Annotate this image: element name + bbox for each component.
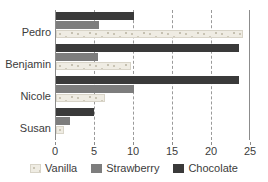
y-axis-label-benjamin: Benjamin (1, 58, 51, 70)
bar-nicole-vanilla (56, 94, 105, 102)
x-tick-label-25: 25 (244, 145, 256, 157)
legend-swatch-chocolate-icon (173, 164, 184, 173)
legend-item-chocolate: Chocolate (173, 162, 238, 174)
legend-swatch-strawberry-icon (91, 164, 102, 173)
bar-benjamin-vanilla (56, 62, 131, 70)
bar-susan-strawberry (56, 117, 70, 125)
bar-benjamin-strawberry (56, 53, 98, 61)
x-tick-label-15: 15 (166, 145, 178, 157)
right-axis-line (249, 10, 250, 140)
x-tick-label-0: 0 (52, 145, 58, 157)
y-axis-label-nicole: Nicole (1, 90, 51, 102)
x-axis: 0 5 10 15 20 25 (55, 142, 251, 158)
bar-nicole-strawberry (56, 85, 134, 93)
bar-pedro-chocolate (56, 12, 134, 20)
x-tick-label-20: 20 (205, 145, 217, 157)
legend-label-vanilla: Vanilla (45, 162, 77, 174)
y-axis-labels: Pedro Benjamin Nicole Susan (0, 10, 51, 140)
legend-label-chocolate: Chocolate (188, 162, 238, 174)
bar-pedro-vanilla (56, 30, 243, 38)
legend-label-strawberry: Strawberry (106, 162, 159, 174)
bar-susan-chocolate (56, 108, 94, 116)
x-tick-label-10: 10 (127, 145, 139, 157)
bar-susan-vanilla (56, 126, 64, 134)
bar-nicole-chocolate (56, 76, 239, 84)
legend-item-strawberry: Strawberry (91, 162, 159, 174)
bar-chart: Pedro Benjamin Nicole Susan (0, 0, 268, 182)
y-axis-label-pedro: Pedro (1, 26, 51, 38)
plot-area (55, 10, 250, 140)
chart-legend: Vanilla Strawberry Chocolate (0, 162, 268, 174)
bar-pedro-strawberry (56, 21, 99, 29)
x-tick-label-5: 5 (91, 145, 97, 157)
y-axis-label-susan: Susan (1, 122, 51, 134)
legend-item-vanilla: Vanilla (30, 162, 77, 174)
bar-benjamin-chocolate (56, 44, 239, 52)
legend-swatch-vanilla-icon (30, 164, 41, 173)
